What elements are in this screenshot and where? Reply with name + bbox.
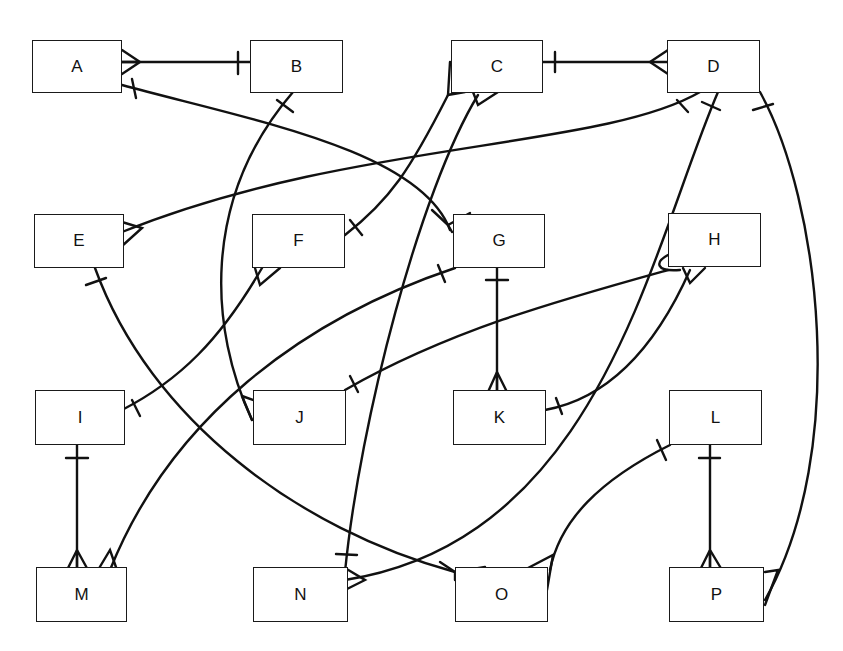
one-bar-e-icon [86,278,106,285]
entity-i[interactable]: I [35,390,125,445]
entity-g[interactable]: G [453,214,545,268]
entity-label: O [495,585,508,605]
entity-c[interactable]: C [451,40,543,93]
entity-e[interactable]: E [34,214,124,268]
er-diagram-canvas: A B C D E F G H I J K L M N O P [0,0,843,651]
relationship-lines [0,0,843,651]
entity-label: D [707,57,719,77]
crowsfoot-a-icon [122,50,140,74]
entity-label: N [294,585,306,605]
entity-label: B [291,57,302,77]
entity-n[interactable]: N [253,567,348,622]
crowsfoot-f-icon [255,268,280,285]
entity-m[interactable]: M [36,567,127,622]
crowsfoot-k-icon [488,372,507,392]
entity-d[interactable]: D [667,40,760,93]
entity-label: I [78,408,83,428]
entity-label: K [494,408,505,428]
entity-label: E [73,231,84,251]
relationship-d-n [345,92,718,580]
relationship-d-p [760,92,818,600]
relationship-l-o [550,445,670,570]
entity-o[interactable]: O [455,567,548,622]
one-bar-n-icon [336,554,357,555]
entity-label: F [293,231,303,251]
relationship-c-n [345,95,478,572]
entity-label: H [708,230,720,250]
relationship-h-k [545,270,690,410]
entity-l[interactable]: L [669,390,762,445]
entity-label: A [71,57,82,77]
entity-label: P [711,585,722,605]
entity-k[interactable]: K [453,390,546,445]
crowsfoot-c2-icon [473,92,498,105]
entity-f[interactable]: F [252,214,345,268]
entity-j[interactable]: J [253,390,346,445]
entity-label: L [711,408,720,428]
entity-p[interactable]: P [669,567,764,622]
crowsfoot-p-icon [765,570,778,605]
entity-label: M [74,585,88,605]
entity-label: G [492,231,505,251]
entity-label: C [491,57,503,77]
entity-label: J [295,408,304,428]
entity-h[interactable]: H [668,213,761,267]
entity-b[interactable]: B [250,40,343,93]
entity-a[interactable]: A [32,40,122,93]
